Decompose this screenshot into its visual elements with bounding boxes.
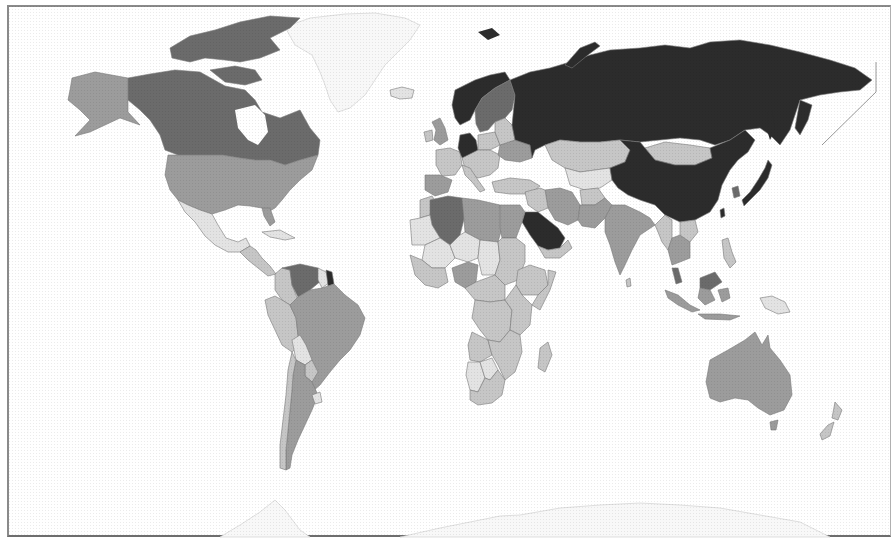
region-egypt[interactable] [500, 205, 525, 238]
region-indonesia[interactable] [665, 288, 740, 320]
region-iran[interactable] [545, 188, 580, 225]
region-antarctica[interactable] [220, 500, 830, 537]
region-tasmania [770, 420, 778, 430]
region-south-korea[interactable] [732, 186, 740, 198]
region-cuba[interactable] [262, 230, 295, 240]
region-united-kingdom[interactable] [432, 118, 448, 145]
region-australia[interactable] [706, 332, 792, 415]
region-central-asia[interactable] [565, 168, 612, 190]
choropleth-world-map [0, 0, 893, 555]
region-central-america[interactable] [240, 246, 276, 276]
region-philippines[interactable] [722, 238, 736, 268]
region-malaysia[interactable] [672, 268, 722, 290]
region-sri-lanka[interactable] [626, 278, 631, 287]
region-iraq[interactable] [525, 188, 548, 212]
region-japan[interactable] [742, 160, 772, 206]
region-florida [262, 208, 275, 226]
region-ireland[interactable] [424, 130, 433, 142]
region-svalbard [478, 28, 500, 40]
region-new-zealand[interactable] [820, 402, 842, 440]
region-taiwan[interactable] [720, 208, 725, 218]
region-india[interactable] [605, 205, 655, 275]
region-papua-new-guinea[interactable] [760, 296, 790, 314]
region-france[interactable] [436, 148, 462, 176]
region-canada[interactable] [128, 70, 320, 165]
region-spain[interactable] [425, 175, 452, 196]
region-madagascar[interactable] [538, 342, 552, 372]
region-iceland[interactable] [390, 87, 414, 99]
